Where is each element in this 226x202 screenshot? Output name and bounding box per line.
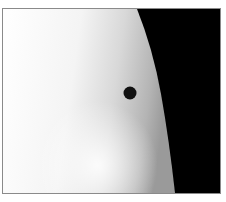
- planet-silhouette: [124, 87, 137, 100]
- transit-photo: [3, 9, 220, 193]
- photo-frame: [2, 8, 221, 194]
